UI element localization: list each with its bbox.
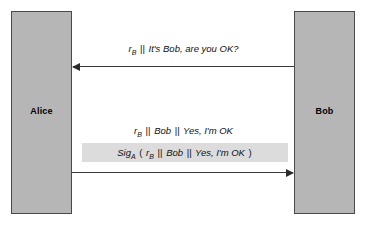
message-3-separator-2: || xyxy=(186,147,193,158)
party-column-bob: Bob xyxy=(294,11,355,214)
message-2-identity: Bob xyxy=(154,125,171,136)
message-2-separator-1: || xyxy=(145,125,152,136)
party-column-alice: Alice xyxy=(11,11,72,214)
message-1-nonce-subscript: B xyxy=(132,49,137,56)
message-3-payload: Yes, I'm OK xyxy=(195,147,245,158)
protocol-diagram: Alice Bob rB || It's Bob, are you OK? rB… xyxy=(0,0,365,229)
message-2-label: rB || Bob || Yes, I'm OK xyxy=(73,124,294,141)
message-1-separator: || xyxy=(139,43,146,54)
message-1-label: rB || It's Bob, are you OK? xyxy=(73,42,294,59)
message-3-close-paren: ) xyxy=(248,147,253,158)
message-2-arrow-line xyxy=(72,172,293,173)
message-3-signature-symbol: Sig xyxy=(117,147,131,158)
party-label-bob: Bob xyxy=(295,106,354,116)
message-3-label: SigA ( rB || Bob || Yes, I'm OK ) xyxy=(82,146,288,163)
message-3-identity: Bob xyxy=(166,147,183,158)
message-1-payload: It's Bob, are you OK? xyxy=(149,43,239,54)
party-label-alice: Alice xyxy=(12,106,71,116)
message-2-arrow-head-right-icon xyxy=(286,169,294,177)
message-3-separator-1: || xyxy=(157,147,164,158)
message-1-arrow-head-left-icon xyxy=(72,63,80,71)
message-3-open-paren: ( xyxy=(138,147,143,158)
message-2-separator-2: || xyxy=(174,125,181,136)
message-3-nonce-subscript: B xyxy=(149,153,154,160)
message-2-payload: Yes, I'm OK xyxy=(183,125,233,136)
message-1-arrow-line xyxy=(73,66,294,67)
message-3-signature-subscript: A xyxy=(131,153,136,160)
message-2-nonce-subscript: B xyxy=(137,131,142,138)
